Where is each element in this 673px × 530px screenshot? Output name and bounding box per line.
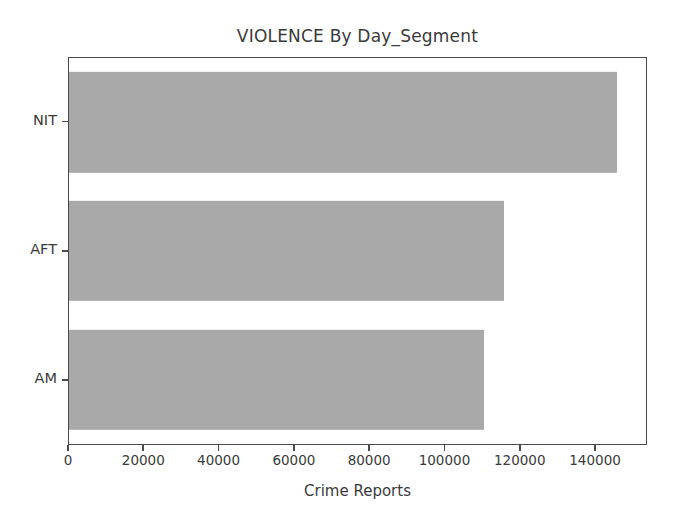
bar-am	[69, 329, 484, 429]
bar-row	[69, 315, 646, 444]
x-tick-label: 120000	[494, 452, 546, 468]
bar-nit	[69, 72, 617, 172]
x-tick-label: 20000	[122, 452, 165, 468]
x-tick-label: 40000	[197, 452, 240, 468]
x-tick-mark	[293, 445, 295, 451]
y-tick-label-am: AM	[35, 370, 57, 386]
bar-row	[69, 187, 646, 316]
y-tick-label-aft: AFT	[30, 241, 57, 257]
plot-axes	[68, 57, 647, 445]
plot-area	[69, 58, 646, 444]
x-tick-mark	[142, 445, 144, 451]
x-tick-mark	[594, 445, 596, 451]
x-tick-mark	[67, 445, 69, 451]
x-tick-label: 140000	[569, 452, 621, 468]
x-tick-mark	[218, 445, 220, 451]
x-tick-label: 60000	[272, 452, 315, 468]
x-tick-label: 100000	[419, 452, 471, 468]
bar-row	[69, 58, 646, 187]
bar-aft	[69, 201, 504, 301]
chart-figure: VIOLENCE By Day_Segment NIT AFT AM	[0, 0, 673, 530]
x-tick-mark	[368, 445, 370, 451]
x-tick-label: 80000	[348, 452, 391, 468]
x-axis-ticks: 020000400006000080000100000120000140000	[68, 445, 647, 485]
x-tick-mark	[519, 445, 521, 451]
x-tick-mark	[444, 445, 446, 451]
x-axis-label: Crime Reports	[68, 482, 647, 500]
chart-title: VIOLENCE By Day_Segment	[68, 26, 647, 46]
y-axis-ticks: NIT AFT AM	[0, 57, 68, 445]
x-tick-label: 0	[64, 452, 73, 468]
y-tick-label-nit: NIT	[33, 112, 57, 128]
